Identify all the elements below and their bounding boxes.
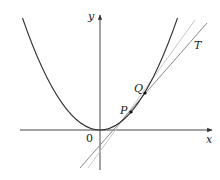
point-q-label: Q [134,82,143,95]
origin-label: 0 [86,132,93,145]
tangent-diagram: y x 0 P Q T [0,0,220,180]
y-axis-label: y [87,10,95,23]
point-q [143,91,146,94]
x-axis-label: x [206,133,213,146]
point-p [129,110,132,113]
tangent-label: T [194,39,203,52]
point-p-label: P [119,104,128,117]
